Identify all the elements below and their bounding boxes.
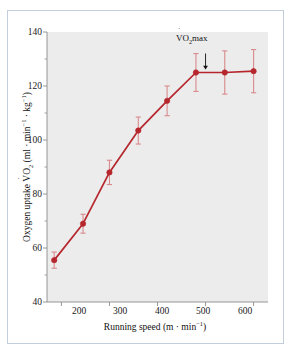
vo2max-annotation-label: ̇VO2max	[176, 33, 208, 45]
x-axis-title: Running speed (m · min−1)	[40, 320, 270, 332]
data-point-marker	[107, 170, 112, 175]
plot-area	[43, 32, 268, 306]
data-point-marker	[164, 98, 169, 103]
x-tick-label-400: 400	[149, 306, 175, 316]
data-point-marker	[193, 70, 198, 75]
y-axis-title: Oxygen uptake ̇VO2 (ml · min−1 · kg−1)	[20, 52, 34, 282]
data-point-marker	[136, 128, 141, 133]
figure-container: 140 120 100 80 60 40 200 300 400 500 600…	[0, 0, 293, 353]
data-point-marker	[222, 70, 227, 75]
x-tick-label-500: 500	[190, 306, 216, 316]
data-point-marker	[80, 221, 85, 226]
x-tick-label-200: 200	[66, 306, 92, 316]
chart-plot-canvas	[0, 0, 293, 353]
x-tick-label-300: 300	[107, 306, 133, 316]
y-tick-label-140: 140	[16, 27, 42, 37]
y-tick-label-40: 40	[16, 297, 42, 307]
data-point-marker	[52, 257, 57, 262]
x-tick-label-600: 600	[232, 306, 258, 316]
data-point-marker	[251, 68, 256, 73]
